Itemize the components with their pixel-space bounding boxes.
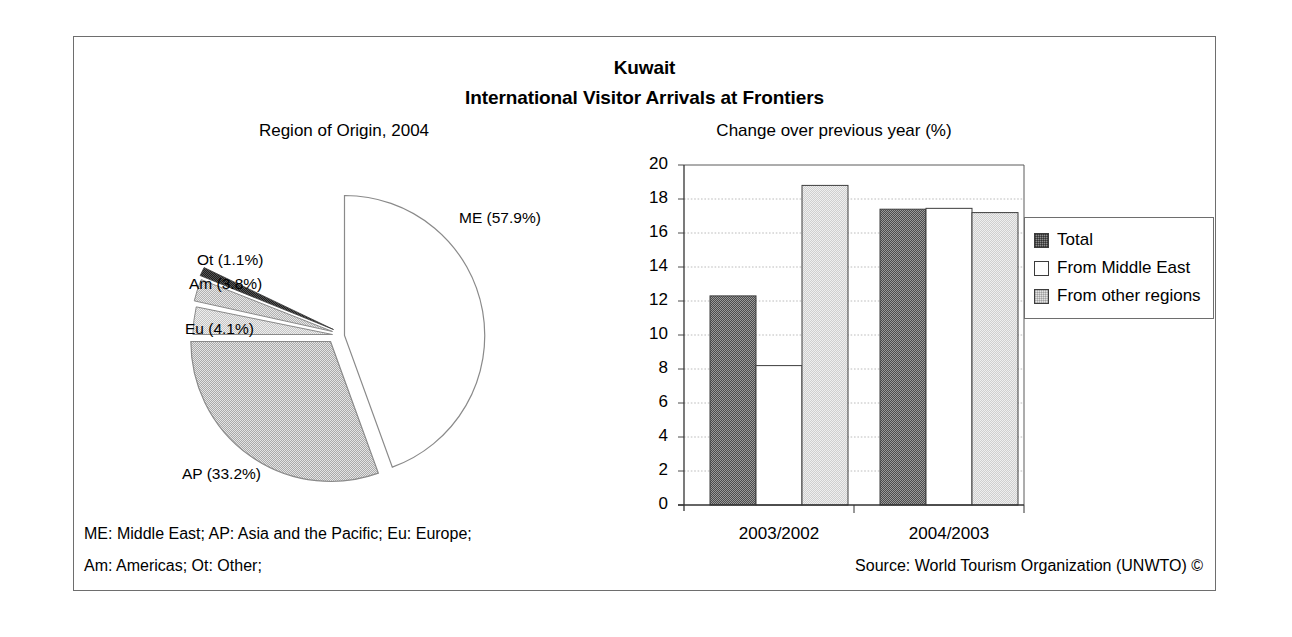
bar-chart-y-ticks <box>678 165 684 505</box>
bar-other-regions-2004 <box>972 213 1018 505</box>
figure-frame: Kuwait International Visitor Arrivals at… <box>73 36 1216 591</box>
legend-swatch-other-regions-icon <box>1034 289 1049 304</box>
y-tick-18: 18 <box>624 188 668 208</box>
pie-chart-svg <box>74 147 594 517</box>
pie-label-americas: Am (3.8%) <box>189 275 262 293</box>
y-tick-14: 14 <box>624 256 668 276</box>
y-tick-2: 2 <box>624 460 668 480</box>
footnote-abbreviations-line-2: Am: Americas; Ot: Other; <box>84 557 262 575</box>
pie-label-other: Ot (1.1%) <box>197 251 263 269</box>
bar-chart: 20 18 16 14 12 10 8 6 4 2 0 2003/2002 20… <box>634 147 1214 567</box>
y-tick-6: 6 <box>624 392 668 412</box>
pie-label-middle-east: ME (57.9%) <box>459 209 541 227</box>
x-category-2003-2002: 2003/2002 <box>699 524 859 544</box>
legend-item-middle-east[interactable]: From Middle East <box>1034 254 1201 282</box>
bar-chart-subtitle: Change over previous year (%) <box>634 121 1034 141</box>
pie-slice-ap <box>191 342 378 482</box>
page-title: Kuwait <box>74 57 1215 79</box>
bar-chart-x-ticks <box>854 505 1024 513</box>
bar-total-2004 <box>880 209 926 505</box>
legend-label-total: Total <box>1057 230 1093 250</box>
bar-other-regions-2003 <box>802 185 848 505</box>
legend-label-middle-east: From Middle East <box>1057 258 1190 278</box>
legend-swatch-middle-east-icon <box>1034 261 1049 276</box>
chart-subtitle: International Visitor Arrivals at Fronti… <box>74 87 1215 109</box>
y-tick-20: 20 <box>624 154 668 174</box>
pie-chart: ME (57.9%) Ot (1.1%) Am (3.8%) Eu (4.1%)… <box>74 147 594 517</box>
legend-swatch-total-icon <box>1034 233 1049 248</box>
bar-chart-svg <box>634 147 1214 567</box>
y-tick-0: 0 <box>624 494 668 514</box>
y-tick-16: 16 <box>624 222 668 242</box>
pie-slice-me <box>345 195 485 467</box>
bar-middle-east-2003 <box>756 366 802 505</box>
pie-label-europe: Eu (4.1%) <box>185 320 254 338</box>
x-category-2004-2003: 2004/2003 <box>869 524 1029 544</box>
y-tick-12: 12 <box>624 290 668 310</box>
bar-middle-east-2004 <box>926 208 972 505</box>
source-note: Source: World Tourism Organization (UNWT… <box>855 557 1203 575</box>
legend-label-other-regions: From other regions <box>1057 286 1201 306</box>
bar-total-2003 <box>710 296 756 505</box>
y-tick-8: 8 <box>624 358 668 378</box>
pie-chart-subtitle: Region of Origin, 2004 <box>134 121 554 141</box>
bar-chart-legend: Total From Middle East From other region… <box>1024 217 1214 319</box>
legend-item-total[interactable]: Total <box>1034 226 1201 254</box>
legend-item-other-regions[interactable]: From other regions <box>1034 282 1201 310</box>
y-tick-10: 10 <box>624 324 668 344</box>
footnote-abbreviations-line-1: ME: Middle East; AP: Asia and the Pacifi… <box>84 525 472 543</box>
y-tick-4: 4 <box>624 426 668 446</box>
pie-label-asia-pacific: AP (33.2%) <box>182 465 261 483</box>
